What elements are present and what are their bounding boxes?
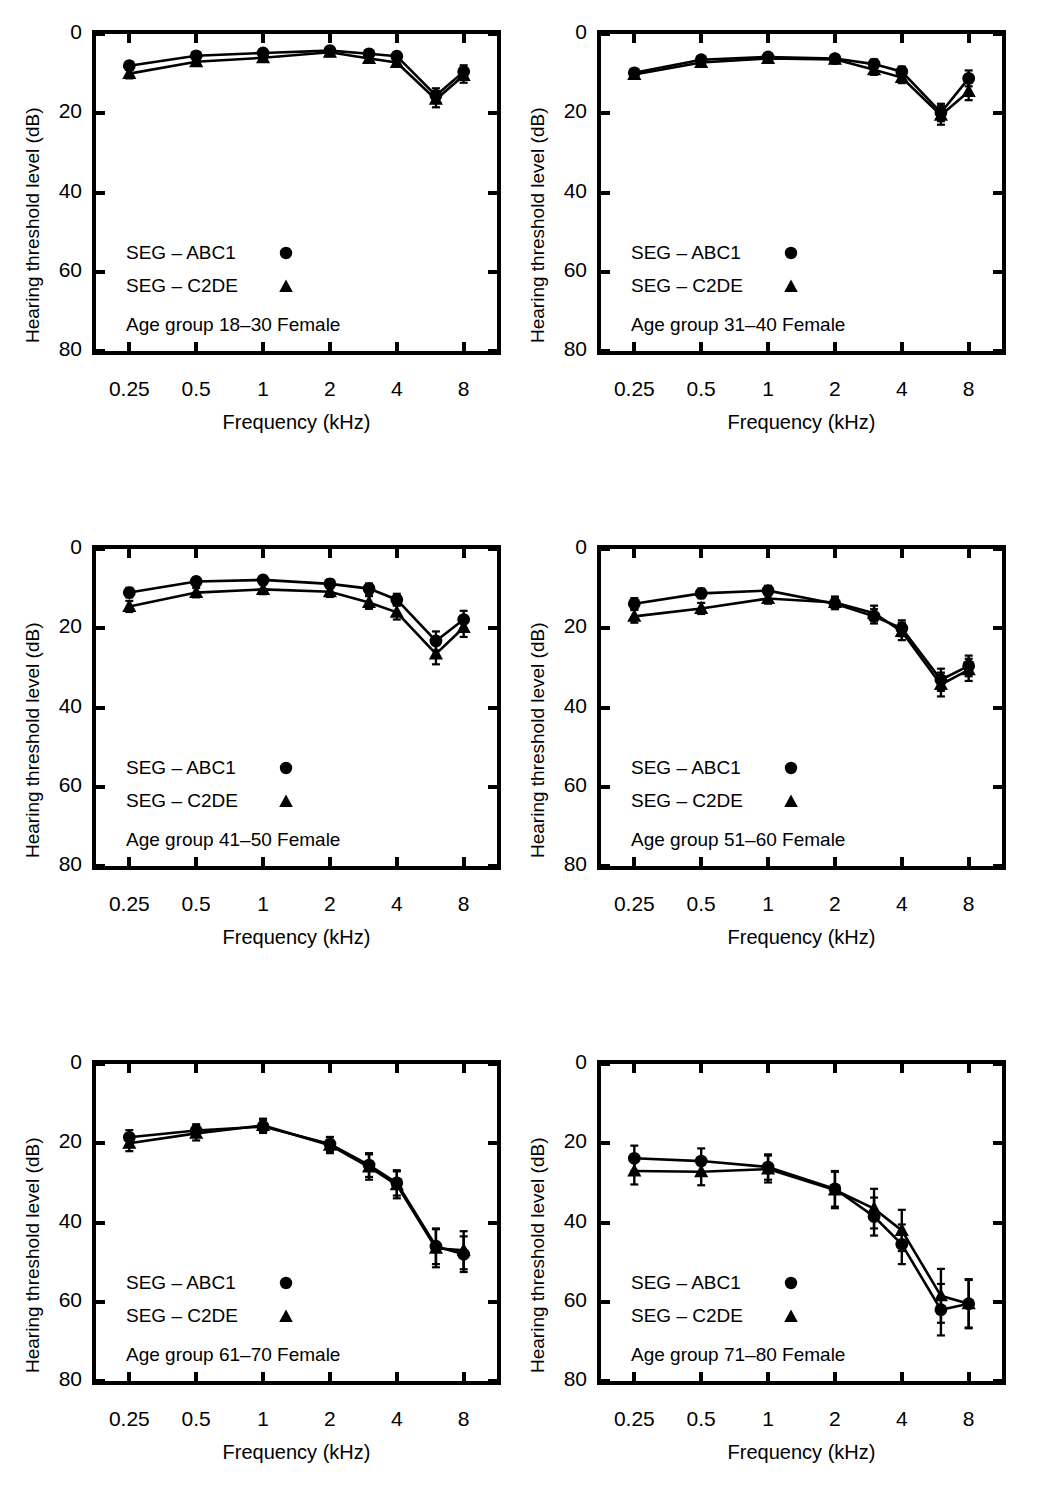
x-tick-label: 0.5 — [671, 1407, 731, 1431]
data-overlay — [601, 34, 1002, 351]
data-overlay — [96, 1064, 497, 1381]
triangle-marker-icon — [895, 1223, 909, 1236]
data-series — [628, 1146, 975, 1336]
x-tick-label: 8 — [939, 377, 999, 401]
series-line — [634, 599, 968, 685]
x-tick-label: 8 — [434, 1407, 494, 1431]
x-axis-title: Frequency (kHz) — [96, 926, 497, 949]
y-tick-label: 0 — [539, 20, 587, 44]
x-tick-label: 0.5 — [671, 892, 731, 916]
data-series — [628, 51, 975, 122]
y-tick-label: 0 — [539, 535, 587, 559]
series-line — [129, 589, 463, 654]
x-axis-title: Frequency (kHz) — [96, 1441, 497, 1464]
x-tick-label: 4 — [367, 1407, 427, 1431]
x-tick-label: 4 — [367, 377, 427, 401]
y-axis-title: Hearing threshold level (dB) — [22, 1137, 44, 1373]
x-tick-label: 0.5 — [166, 377, 226, 401]
x-tick-label: 0.25 — [604, 892, 664, 916]
x-axis-title: Frequency (kHz) — [601, 411, 1002, 434]
y-axis-title: Hearing threshold level (dB) — [527, 107, 549, 343]
data-series — [627, 591, 976, 696]
y-tick-label: 0 — [34, 20, 82, 44]
data-series — [627, 1156, 976, 1329]
y-tick-label: 0 — [34, 535, 82, 559]
figure-canvas: 020406080Hearing threshold level (dB)0.2… — [0, 0, 1046, 1496]
x-tick-label: 1 — [233, 377, 293, 401]
x-axis-title: Frequency (kHz) — [96, 411, 497, 434]
circle-marker-icon — [363, 582, 376, 595]
x-tick-label: 4 — [367, 892, 427, 916]
data-series — [123, 1120, 470, 1272]
x-tick-label: 1 — [233, 892, 293, 916]
y-tick-label: 0 — [34, 1050, 82, 1074]
y-axis-title: Hearing threshold level (dB) — [527, 1137, 549, 1373]
x-axis-title: Frequency (kHz) — [601, 1441, 1002, 1464]
x-tick-label: 4 — [872, 377, 932, 401]
data-series — [627, 51, 976, 125]
x-tick-label: 2 — [300, 892, 360, 916]
x-tick-label: 1 — [233, 1407, 293, 1431]
x-tick-label: 8 — [939, 892, 999, 916]
x-tick-label: 4 — [872, 1407, 932, 1431]
data-overlay — [96, 549, 497, 866]
x-tick-label: 2 — [300, 377, 360, 401]
x-tick-label: 2 — [805, 892, 865, 916]
x-tick-label: 0.5 — [671, 377, 731, 401]
series-line — [634, 1169, 968, 1304]
x-tick-label: 2 — [805, 377, 865, 401]
x-tick-label: 1 — [738, 377, 798, 401]
x-tick-label: 0.5 — [166, 892, 226, 916]
circle-marker-icon — [695, 587, 708, 600]
data-overlay — [96, 34, 497, 351]
x-tick-label: 0.25 — [99, 1407, 159, 1431]
x-tick-label: 8 — [939, 1407, 999, 1431]
y-axis-title: Hearing threshold level (dB) — [22, 622, 44, 858]
data-series — [122, 45, 471, 108]
series-line — [129, 51, 463, 96]
x-tick-label: 0.5 — [166, 1407, 226, 1431]
triangle-marker-icon — [934, 1288, 948, 1301]
x-tick-label: 0.25 — [99, 892, 159, 916]
data-overlay — [601, 549, 1002, 866]
circle-marker-icon — [628, 597, 641, 610]
x-tick-label: 0.25 — [604, 377, 664, 401]
x-axis-title: Frequency (kHz) — [601, 926, 1002, 949]
data-overlay — [601, 1064, 1002, 1381]
series-line — [634, 59, 968, 116]
x-tick-label: 0.25 — [604, 1407, 664, 1431]
x-tick-label: 2 — [300, 1407, 360, 1431]
series-line — [634, 1158, 968, 1309]
x-tick-label: 8 — [434, 892, 494, 916]
x-tick-label: 1 — [738, 892, 798, 916]
x-tick-label: 8 — [434, 377, 494, 401]
y-axis-title: Hearing threshold level (dB) — [527, 622, 549, 858]
data-series — [123, 44, 470, 102]
series-line — [129, 1125, 463, 1250]
series-line — [634, 591, 968, 680]
data-series — [122, 1118, 471, 1269]
x-tick-label: 2 — [805, 1407, 865, 1431]
x-tick-label: 1 — [738, 1407, 798, 1431]
x-tick-label: 0.25 — [99, 377, 159, 401]
y-axis-title: Hearing threshold level (dB) — [22, 107, 44, 343]
x-tick-label: 4 — [872, 892, 932, 916]
circle-marker-icon — [123, 586, 136, 599]
y-tick-label: 0 — [539, 1050, 587, 1074]
series-line — [129, 1127, 463, 1255]
data-series — [123, 574, 470, 651]
